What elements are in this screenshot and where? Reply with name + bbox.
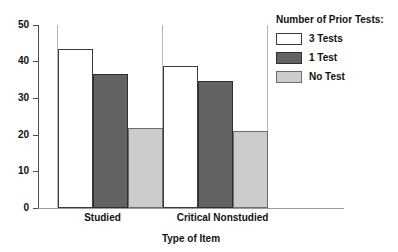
bar-critical-nonstudied-no-test	[233, 131, 268, 208]
legend-item-1-test: 1 Test	[276, 51, 396, 64]
plot-area	[38, 25, 287, 208]
legend-swatch-3-tests	[276, 33, 302, 45]
legend-swatch-1-test	[276, 52, 302, 64]
bar-studied-1-test	[93, 74, 128, 208]
y-tick-label-10: 10	[3, 166, 29, 176]
legend-label-no-test: No Test	[309, 71, 345, 83]
legend: Number of Prior Tests: 3 Tests 1 Test No…	[276, 14, 396, 89]
y-tick-label-40: 40	[3, 56, 29, 66]
legend-item-no-test: No Test	[276, 70, 396, 83]
legend-swatch-no-test	[276, 71, 302, 83]
bar-studied-no-test	[128, 128, 163, 208]
x-axis-line	[38, 208, 344, 209]
legend-label-1-test: 1 Test	[309, 52, 337, 64]
bar-critical-nonstudied-1-test	[198, 81, 233, 208]
bar-chart-figure: 50 40 30 20 10 0	[0, 0, 398, 252]
bar-studied-3-tests	[58, 49, 93, 208]
legend-label-3-tests: 3 Tests	[309, 33, 343, 45]
y-tick-label-20: 20	[3, 130, 29, 140]
y-tick-label-30: 30	[3, 93, 29, 103]
legend-title: Number of Prior Tests:	[276, 14, 396, 26]
x-axis-title: Type of Item	[38, 233, 344, 245]
legend-item-3-tests: 3 Tests	[276, 32, 396, 45]
x-category-label-studied: Studied	[50, 212, 155, 224]
y-tick-label-50: 50	[3, 20, 29, 30]
y-tick-label-0: 0	[3, 203, 29, 213]
bar-critical-nonstudied-3-tests	[163, 66, 198, 208]
x-category-label-critical-nonstudied: Critical Nonstudied	[155, 212, 290, 224]
